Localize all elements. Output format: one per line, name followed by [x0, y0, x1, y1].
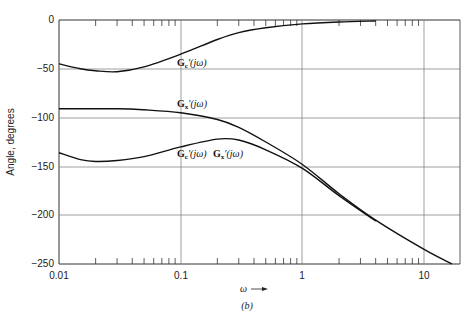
x-tick-10: 10	[418, 270, 430, 281]
curve-label-gc: Gc′(jω)	[177, 57, 207, 70]
arrowhead-icon	[262, 287, 268, 291]
y-tick-150: −150	[31, 161, 54, 172]
y-tick-250: −250	[31, 258, 54, 269]
figure-caption: (b)	[241, 300, 253, 312]
curves	[59, 21, 452, 264]
x-axis-label: ω	[240, 283, 268, 294]
curve-label-product: Gc′(jω) Gx′(jω)	[177, 148, 244, 161]
minor-ticks	[96, 20, 419, 264]
plot-frame	[59, 20, 460, 264]
svg-text:Gc′(jω): Gc′(jω)	[177, 148, 207, 161]
omega-symbol: ω	[240, 283, 247, 294]
y-tick-labels: 0 −50 −100 −150 −200 −250	[31, 14, 54, 269]
svg-text:Gx′(jω): Gx′(jω)	[213, 148, 244, 161]
curve-1	[59, 109, 452, 264]
bode-phase-chart: 0 −50 −100 −150 −200 −250 0.01 0.1 1 10 …	[0, 0, 472, 321]
curve-0	[59, 21, 376, 72]
x-tick-0.1: 0.1	[174, 270, 188, 281]
curve-label-gx: Gx′(jω)	[177, 98, 208, 111]
y-tick-0: 0	[48, 14, 54, 25]
y-tick-100: −100	[31, 112, 54, 123]
svg-text:Gc′(jω): Gc′(jω)	[177, 57, 207, 70]
x-tick-1: 1	[299, 270, 305, 281]
gridlines	[59, 20, 460, 264]
y-tick-50: −50	[37, 63, 54, 74]
y-axis-label: Angle, degrees	[5, 108, 16, 175]
y-tick-200: −200	[31, 209, 54, 220]
svg-text:Gx′(jω): Gx′(jω)	[177, 98, 208, 111]
x-tick-labels: 0.01 0.1 1 10	[49, 270, 430, 281]
x-tick-0.01: 0.01	[49, 270, 69, 281]
